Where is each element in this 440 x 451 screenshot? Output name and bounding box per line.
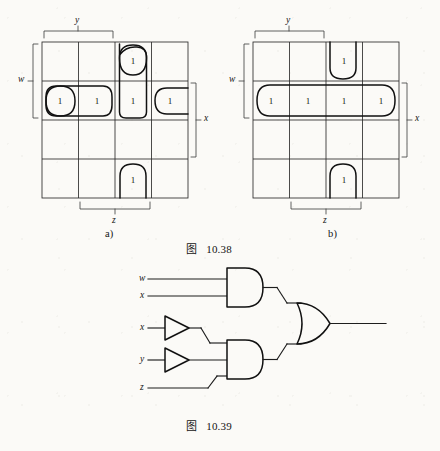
or-gate-1 xyxy=(297,303,386,344)
circuit-input-label-y: y xyxy=(140,354,144,364)
z-wire-route xyxy=(208,376,227,388)
kmap-a-label-y: y xyxy=(75,15,79,25)
kmap-a-cell-r2c4-value: 1 xyxy=(168,96,173,106)
kmap-b-cell-r1c3-value: 1 xyxy=(342,56,347,66)
kmap-b-label-y: y xyxy=(286,15,290,25)
subfigure-label-b: b) xyxy=(328,228,337,239)
circuit-input-label-x1: x xyxy=(140,290,144,300)
kmap-b-grid xyxy=(253,42,399,198)
kmap-b-cell-r2c3-value: 1 xyxy=(342,96,347,106)
kmap-a-cell-r2c2-value: 1 xyxy=(95,96,100,106)
logic-circuit xyxy=(148,268,386,388)
kmap-a-groups xyxy=(46,44,188,198)
figure-10-39-caption: 图10.39 xyxy=(186,417,232,433)
kmap-b-cell-r2c1-value: 1 xyxy=(269,96,274,106)
kmap-a-cell-r1c3-value: 1 xyxy=(131,56,136,66)
subfigure-label-a: a) xyxy=(105,228,114,239)
kmap-a-grid xyxy=(42,42,188,198)
kmap-b-label-w: w xyxy=(229,74,235,84)
kmap-b-label-x: x xyxy=(415,113,419,123)
kmap-a-label-x: x xyxy=(204,113,208,123)
kmap-a-cell-r2c3-value: 1 xyxy=(131,96,136,106)
figure-10-38-caption-number: 10.38 xyxy=(206,243,232,255)
figure-10-39-caption-number: 10.39 xyxy=(206,420,232,432)
circuit-input-label-x2: x xyxy=(140,322,144,332)
not-gate-1 xyxy=(165,316,227,343)
figures-canvas: .gl { stroke:#2b2b2b; stroke-width:0.85;… xyxy=(0,0,440,451)
and-gate-2 xyxy=(227,340,301,379)
figure-10-38-caption: 图10.38 xyxy=(186,240,232,256)
kmap-a-label-z: z xyxy=(112,215,116,225)
kmap-b-cell-r4c3-value: 1 xyxy=(342,175,347,185)
kmap-a-cell-r4c3-value: 1 xyxy=(131,175,136,185)
kmap-b-label-z: z xyxy=(323,215,327,225)
kmap-a-cell-r2c1-value: 1 xyxy=(58,96,63,106)
figure-10-38-caption-label: 图 xyxy=(186,243,197,255)
and-gate-1 xyxy=(227,268,301,307)
circuit-input-label-z: z xyxy=(140,382,144,392)
kmap-a-label-w: w xyxy=(18,74,24,84)
not-gate-2 xyxy=(165,348,227,372)
page-root: .gl { stroke:#2b2b2b; stroke-width:0.85;… xyxy=(0,0,440,451)
circuit-input-label-w: w xyxy=(139,273,145,283)
kmap-b-cell-r2c4-value: 1 xyxy=(379,96,384,106)
figure-10-39-caption-label: 图 xyxy=(186,420,197,432)
kmap-b-cell-r2c2-value: 1 xyxy=(306,96,311,106)
input-wires xyxy=(148,279,227,388)
